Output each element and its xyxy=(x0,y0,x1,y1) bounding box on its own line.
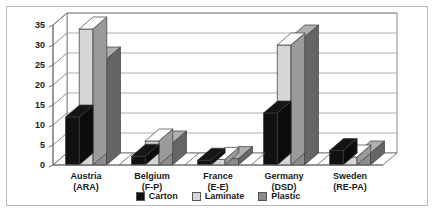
y-tick-label-15: 15 xyxy=(23,101,45,110)
legend-item-plastic[interactable]: Plastic xyxy=(258,192,300,201)
legend-item-carton[interactable]: Carton xyxy=(136,192,178,201)
left-wall xyxy=(53,13,67,165)
y-tick-label-35: 35 xyxy=(23,21,45,30)
chart-frame: 05101520253035 Austria(ARA)Belgium(F-P)F… xyxy=(6,6,428,206)
legend-swatch-icon xyxy=(192,192,201,201)
y-tick-20 xyxy=(49,85,53,87)
y-tick-25 xyxy=(49,65,53,67)
legend-item-laminate[interactable]: Laminate xyxy=(192,192,245,201)
y-tick-label-20: 20 xyxy=(23,81,45,90)
legend-swatch-icon xyxy=(258,192,267,201)
category-label-line: Austria xyxy=(53,171,119,182)
y-tick-label-30: 30 xyxy=(23,41,45,50)
category-label-line: Belgium xyxy=(119,171,185,182)
legend-label: Laminate xyxy=(205,192,245,201)
y-tick-label-10: 10 xyxy=(23,121,45,130)
category-label-line: Germany xyxy=(251,171,317,182)
category-label-line: Sweden xyxy=(317,171,383,182)
y-tick-15 xyxy=(49,105,53,107)
y-tick-10 xyxy=(49,125,53,127)
bar-carton-0 xyxy=(66,105,94,165)
chart-legend: CartonLaminatePlastic xyxy=(7,189,429,203)
legend-label: Carton xyxy=(149,192,178,201)
y-tick-5 xyxy=(49,145,53,147)
bar-carton-3 xyxy=(264,101,292,165)
y-tick-30 xyxy=(49,45,53,47)
y-tick-label-0: 0 xyxy=(23,161,45,170)
y-tick-35 xyxy=(49,25,53,27)
category-label-line: France xyxy=(185,171,251,182)
y-tick-label-25: 25 xyxy=(23,61,45,70)
y-tick-label-5: 5 xyxy=(23,141,45,150)
legend-swatch-icon xyxy=(136,192,145,201)
legend-label: Plastic xyxy=(271,192,300,201)
